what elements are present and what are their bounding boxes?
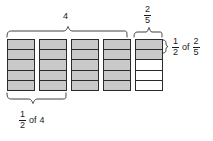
bottom-brace-half-of-four xyxy=(7,93,66,104)
bar-3-segment-2 xyxy=(72,50,98,60)
numerator: 2 xyxy=(193,37,200,48)
bar-3-segment-4 xyxy=(72,71,98,81)
bar-4 xyxy=(103,39,131,91)
denominator: 2 xyxy=(172,48,179,58)
bar-5-segment-1 xyxy=(136,40,162,50)
connector-of: of xyxy=(29,116,37,125)
fraction-one-half: 1 2 xyxy=(19,110,26,130)
denominator: 2 xyxy=(19,121,26,131)
top-brace-two-fifths xyxy=(134,28,162,38)
bar-5-segment-3 xyxy=(136,60,162,70)
bar-5 xyxy=(135,39,163,91)
label-top-four: 4 xyxy=(63,12,68,21)
numerator: 2 xyxy=(144,5,151,16)
fraction-two-fifths: 2 5 xyxy=(193,37,200,57)
bar-1-segment-3 xyxy=(8,60,34,70)
numerator: 1 xyxy=(172,37,179,48)
numerator: 1 xyxy=(19,110,26,121)
bar-4-segment-3 xyxy=(104,60,130,70)
label-top-two-fifths-fraction: 2 5 xyxy=(144,5,151,25)
bar-5-segment-2 xyxy=(136,50,162,60)
denominator: 5 xyxy=(193,48,200,58)
bar-3-segment-1 xyxy=(72,40,98,50)
denominator: 5 xyxy=(144,16,151,26)
bar-1-segment-1 xyxy=(8,40,34,50)
value-four: 4 xyxy=(40,116,45,125)
bar-4-segment-5 xyxy=(104,81,130,90)
bar-2 xyxy=(39,39,67,91)
bar-4-segment-1 xyxy=(104,40,130,50)
connector-of: of xyxy=(182,43,190,52)
bar-2-segment-2 xyxy=(40,50,66,60)
fraction-model-figure: 4 2 5 1 2 of 2 5 1 2 of 4 xyxy=(0,0,213,141)
bar-1 xyxy=(7,39,35,91)
label-half-of-four: 1 2 of 4 xyxy=(19,110,45,130)
bar-2-segment-4 xyxy=(40,71,66,81)
bar-1-segment-2 xyxy=(8,50,34,60)
label-half-of-two-fifths-group: 1 2 of 2 5 xyxy=(172,37,200,57)
bar-3-segment-5 xyxy=(72,81,98,90)
label-top-two-fifths: 2 5 xyxy=(144,5,151,25)
bar-1-segment-4 xyxy=(8,71,34,81)
bar-3 xyxy=(71,39,99,91)
bar-2-segment-1 xyxy=(40,40,66,50)
right-callout-brace xyxy=(163,40,168,53)
bar-5-segment-5 xyxy=(136,81,162,90)
label-top-four-text: 4 xyxy=(63,11,68,21)
label-half-of-four-group: 1 2 of 4 xyxy=(19,110,45,130)
bar-2-segment-5 xyxy=(40,81,66,90)
bar-4-segment-2 xyxy=(104,50,130,60)
bar-3-segment-3 xyxy=(72,60,98,70)
fraction-one-half: 1 2 xyxy=(172,37,179,57)
top-brace-4 xyxy=(7,27,127,38)
bar-5-segment-4 xyxy=(136,71,162,81)
label-half-of-two-fifths: 1 2 of 2 5 xyxy=(172,37,200,57)
bar-2-segment-3 xyxy=(40,60,66,70)
bar-1-segment-5 xyxy=(8,81,34,90)
bar-4-segment-4 xyxy=(104,71,130,81)
